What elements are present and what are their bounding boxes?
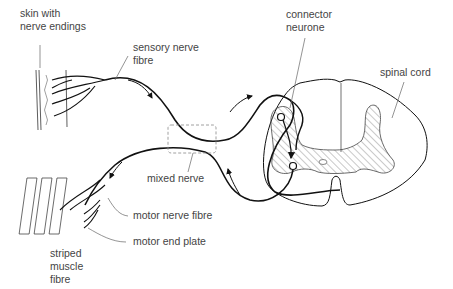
motor-end-plates (60, 180, 105, 228)
label-connector-neurone: connector neurone (286, 8, 332, 34)
central-canal (319, 160, 327, 165)
label-spinal-cord: spinal cord (380, 66, 431, 79)
label-mixed-nerve: mixed nerve (147, 172, 204, 185)
reflex-arc-diagram: skin with nerve endings sensory nerve fi… (0, 0, 453, 289)
striped-muscle-icon (19, 178, 67, 234)
diagram-drawing (0, 0, 453, 289)
label-motor-end-plate: motor end plate (133, 235, 206, 248)
label-skin: skin with nerve endings (20, 7, 86, 33)
label-striped-muscle-fibre: striped muscle fibre (50, 247, 83, 286)
label-motor-nerve-fibre: motor nerve fibre (133, 209, 212, 222)
sensory-nerve-endings (52, 76, 105, 116)
label-sensory-nerve-fibre: sensory nerve fibre (133, 41, 199, 67)
